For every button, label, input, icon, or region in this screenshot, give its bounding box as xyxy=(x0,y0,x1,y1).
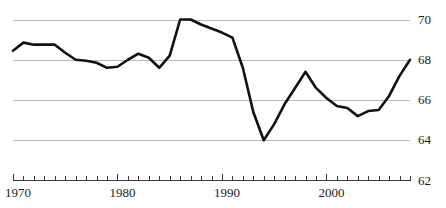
data-series-line xyxy=(13,20,410,141)
x-axis-ticks xyxy=(14,174,411,181)
gridlines xyxy=(13,21,410,141)
y-axis-label-70: 70 xyxy=(418,13,431,26)
x-axis-label-1980: 1980 xyxy=(109,186,135,199)
y-axis-label-62: 62 xyxy=(418,174,431,187)
line-chart: 7068666462 1970198019902000 xyxy=(0,0,446,208)
y-axis-label-66: 66 xyxy=(418,93,431,106)
x-axis-label-1990: 1990 xyxy=(214,186,240,199)
y-axis-label-68: 68 xyxy=(418,53,431,66)
y-axis-label-64: 64 xyxy=(418,133,431,146)
x-axis-label-1970: 1970 xyxy=(5,186,31,199)
x-axis-label-2000: 2000 xyxy=(318,186,344,199)
chart-plot-area xyxy=(0,0,446,208)
